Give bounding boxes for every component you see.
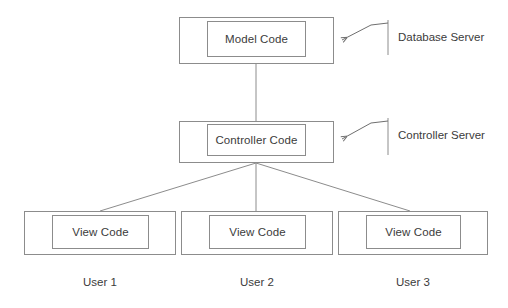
user-label-3: User 3 (338, 276, 488, 288)
leader-line-controller-server (342, 121, 388, 139)
connector-controller-to-view-3 (256, 163, 410, 211)
controller-code-inner-box: Controller Code (207, 124, 306, 156)
database-server-label: Database Server (398, 31, 484, 43)
connector-controller-to-view-1 (100, 163, 256, 211)
user-label-2: User 2 (181, 276, 333, 288)
controller-code-label: Controller Code (215, 134, 297, 146)
view-code-label-2: View Code (229, 226, 285, 238)
view-code-inner-box-2: View Code (209, 215, 306, 249)
view-code-label-3: View Code (385, 226, 441, 238)
leader-line-database-server (342, 23, 388, 40)
view-code-inner-box-3: View Code (366, 215, 461, 249)
model-code-inner-box: Model Code (207, 21, 306, 57)
view-code-label-1: View Code (72, 226, 128, 238)
user-label-1: User 1 (24, 276, 176, 288)
view-code-inner-box-1: View Code (52, 215, 149, 249)
controller-server-label: Controller Server (398, 129, 485, 141)
model-code-label: Model Code (225, 33, 288, 45)
